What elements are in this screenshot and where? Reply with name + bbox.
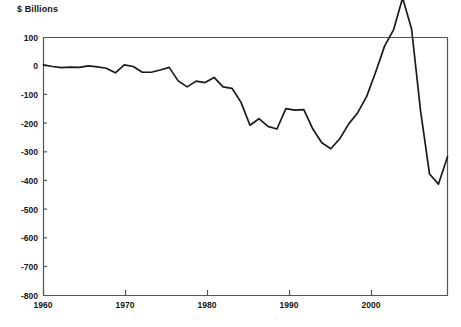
x-tick-label: 1980 bbox=[187, 300, 227, 310]
y-tick-label: -400 bbox=[4, 176, 38, 186]
y-tick-label: -100 bbox=[4, 90, 38, 100]
data-series-line bbox=[44, 0, 448, 184]
x-tick-label: 1960 bbox=[23, 300, 63, 310]
y-tick-label: -300 bbox=[4, 147, 38, 157]
y-tick-label: 100 bbox=[4, 33, 38, 43]
chart-container: $ Billions 100 0 -100 bbox=[0, 0, 461, 327]
y-tick-label: 0 bbox=[4, 61, 38, 71]
plot-svg bbox=[0, 0, 461, 327]
x-tick-label: 2000 bbox=[351, 300, 391, 310]
y-tick-label: -600 bbox=[4, 233, 38, 243]
x-tick-label: 1990 bbox=[269, 300, 309, 310]
y-tick-label: -700 bbox=[4, 262, 38, 272]
y-tick-label: -500 bbox=[4, 205, 38, 215]
y-tick-label: -200 bbox=[4, 119, 38, 129]
x-tick-marks bbox=[44, 290, 372, 296]
x-tick-label: 1970 bbox=[105, 300, 145, 310]
